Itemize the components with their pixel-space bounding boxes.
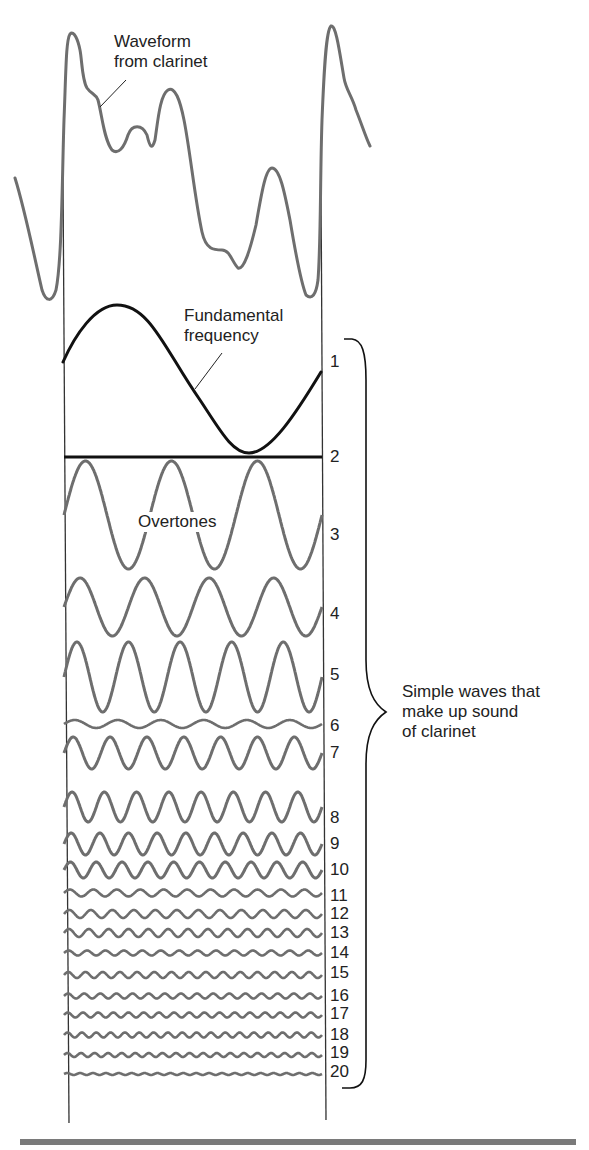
fundamental-pointer xyxy=(195,353,222,389)
overtone-wave-9 xyxy=(64,833,322,855)
fundamental-label-line2: frequency xyxy=(184,326,283,346)
summary-label-line3: of clarinet xyxy=(402,722,540,742)
waveform-label-line1: Waveform xyxy=(114,32,208,52)
harmonic-number-10: 10 xyxy=(330,861,349,879)
overtone-wave-5 xyxy=(64,642,322,712)
summary-label: Simple waves that make up sound of clari… xyxy=(402,682,540,742)
harmonic-number-3: 3 xyxy=(330,526,339,544)
overtone-wave-15 xyxy=(64,972,322,978)
overtone-wave-13 xyxy=(64,929,322,937)
harmonic-number-6: 6 xyxy=(330,717,339,735)
harmonic-number-14: 14 xyxy=(330,944,349,962)
bottom-rule xyxy=(20,1139,576,1145)
summary-label-line2: make up sound xyxy=(402,702,540,722)
fundamental-label-line1: Fundamental xyxy=(184,306,283,326)
overtone-wave-17 xyxy=(64,1013,322,1018)
harmonic-number-9: 9 xyxy=(330,835,339,853)
harmonics-diagram xyxy=(0,0,589,1150)
overtone-wave-16 xyxy=(64,994,322,999)
waveform-label: Waveform from clarinet xyxy=(114,32,208,72)
harmonic-number-17: 17 xyxy=(330,1005,349,1023)
harmonic-number-15: 15 xyxy=(330,964,349,982)
harmonic-number-11: 11 xyxy=(330,887,348,905)
overtone-wave-20 xyxy=(64,1073,322,1075)
left-frame-line xyxy=(63,178,69,1123)
harmonic-number-2: 2 xyxy=(330,448,339,466)
harmonic-number-1: 1 xyxy=(330,353,339,371)
harmonic-number-13: 13 xyxy=(330,924,349,942)
waveform-label-line2: from clarinet xyxy=(114,52,208,72)
overtone-wave-10 xyxy=(64,862,322,878)
overtone-wave-18 xyxy=(64,1033,322,1038)
overtone-wave-14 xyxy=(64,951,322,956)
harmonic-number-8: 8 xyxy=(330,809,339,827)
overtone-wave-12 xyxy=(64,910,322,918)
overtone-wave-6 xyxy=(64,720,322,728)
harmonic-number-18: 18 xyxy=(330,1026,349,1044)
harmonic-number-12: 12 xyxy=(330,905,349,923)
harmonic-number-7: 7 xyxy=(330,744,339,762)
right-frame-line xyxy=(321,178,326,1120)
waveform-pointer xyxy=(100,80,126,107)
summary-label-line1: Simple waves that xyxy=(402,682,540,702)
overtone-wave-19 xyxy=(64,1053,322,1057)
harmonic-number-19: 19 xyxy=(330,1044,349,1062)
harmonic-number-5: 5 xyxy=(330,666,339,684)
overtone-wave-11 xyxy=(64,890,322,897)
fundamental-label: Fundamental frequency xyxy=(184,306,283,346)
harmonic-number-20: 20 xyxy=(330,1063,349,1081)
overtones-label: Overtones xyxy=(136,512,218,532)
overtone-waves xyxy=(64,457,322,1075)
overtone-wave-8 xyxy=(64,792,322,822)
harmonic-number-16: 16 xyxy=(330,987,349,1005)
overtone-wave-4 xyxy=(64,578,322,636)
overtone-wave-7 xyxy=(64,737,322,769)
harmonic-number-4: 4 xyxy=(330,605,339,623)
